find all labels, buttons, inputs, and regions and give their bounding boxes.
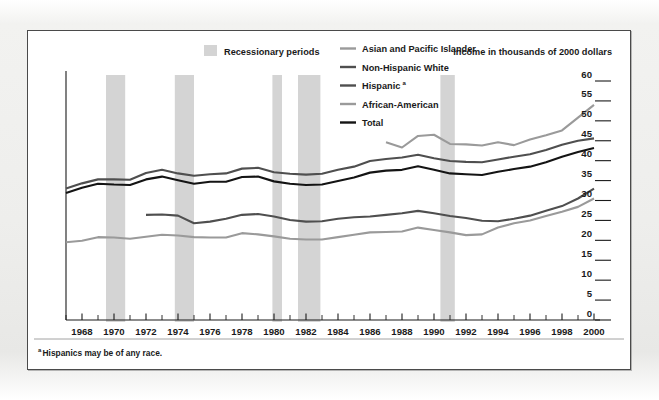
recession-band: [440, 75, 454, 322]
data-series-layer: [66, 105, 594, 242]
y-tick-label: 20: [581, 228, 592, 239]
y-axis-title: Income in thousands of 2000 dollars: [453, 47, 612, 57]
x-tick-label: 1974: [167, 326, 189, 337]
x-tick-label: 1968: [71, 326, 93, 337]
x-tick-label: 1994: [487, 326, 509, 337]
axes-layer: [66, 71, 600, 320]
legend-item-label-5: Total: [362, 118, 383, 128]
recession-legend-swatch: [204, 45, 217, 56]
x-tick-label: 1972: [135, 326, 156, 337]
x-tick-label: 1992: [455, 326, 476, 337]
y-tick-label: 25: [581, 208, 592, 219]
y-tick-label: 45: [581, 128, 592, 139]
y-tick-label: 40: [581, 148, 592, 159]
chart-legend: Recessionary periodsAsian and Pacific Is…: [204, 44, 476, 128]
x-tick-label: 1986: [359, 326, 380, 337]
x-tick-label: 2000: [583, 326, 604, 337]
recession-band: [298, 75, 320, 322]
y-tick-label: 50: [581, 108, 592, 119]
footnote-marker: a: [38, 347, 42, 353]
x-tick-label: 1988: [391, 326, 413, 337]
y-tick-label: 5: [587, 288, 593, 299]
x-tick-label: 1998: [551, 326, 573, 337]
x-tick-label: 1996: [519, 326, 540, 337]
income-by-race-line-chart: Recessionary periodsAsian and Pacific Is…: [28, 31, 630, 369]
recession-bands-layer: [106, 75, 455, 322]
y-tick-label: 0: [587, 308, 592, 319]
legend-item-label-3: Hispanic: [362, 81, 400, 91]
figure-card: Recessionary periodsAsian and Pacific Is…: [27, 30, 631, 370]
y-axis-ticks: [595, 81, 611, 320]
x-tick-label: 1970: [103, 326, 124, 337]
x-tick-label: 1980: [263, 326, 284, 337]
y-tick-label: 30: [581, 188, 592, 199]
y-tick-label: 15: [581, 248, 592, 259]
x-tick-label: 1976: [199, 326, 220, 337]
y-tick-label: 55: [581, 88, 592, 99]
series-line-asian-and-pacific-islander: [386, 105, 594, 148]
series-line-total: [66, 148, 594, 193]
recession-band: [175, 75, 194, 322]
footnote-text: Hispanics may be of any race.: [43, 348, 163, 358]
x-tick-label: 1978: [231, 326, 253, 337]
recession-band: [106, 75, 125, 322]
series-line-hispanic: [146, 189, 594, 224]
x-axis-ticks: [66, 314, 594, 321]
recession-band: [272, 75, 282, 322]
recession-legend-label: Recessionary periods: [224, 47, 320, 57]
y-tick-label: 60: [581, 69, 592, 80]
legend-superscript-3: a: [402, 80, 406, 86]
x-tick-label: 1984: [327, 326, 349, 337]
page-background: Recessionary periodsAsian and Pacific Is…: [0, 0, 659, 400]
y-tick-label: 10: [581, 268, 592, 279]
x-tick-label: 1990: [423, 326, 444, 337]
x-tick-label: 1982: [295, 326, 316, 337]
legend-item-label-2: Non-Hispanic White: [362, 63, 449, 73]
legend-item-label-4: African-American: [362, 100, 439, 110]
y-tick-label: 35: [581, 168, 592, 179]
